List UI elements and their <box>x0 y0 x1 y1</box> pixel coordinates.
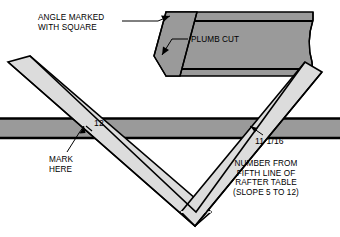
diagram-artwork <box>0 0 340 237</box>
label-twelve: 12 <box>94 118 104 128</box>
label-angle-marked: ANGLE MARKED WITH SQUARE <box>38 13 104 32</box>
diagram-figure: ANGLE MARKED WITH SQUARE PLUMB CUT 12 MA… <box>0 0 340 237</box>
framing-square-right-arm <box>181 62 322 226</box>
label-number-from-table: NUMBER FROM FIFTH LINE OF RAFTER TABLE (… <box>199 159 333 198</box>
label-plumb-cut: PLUMB CUT <box>191 35 239 45</box>
horizontal-board <box>0 118 340 139</box>
framing-square-left-arm <box>8 56 211 226</box>
label-mark-here: MARK HERE <box>49 155 73 174</box>
label-eleven-sixteenths: 11 1/16 <box>255 136 284 146</box>
